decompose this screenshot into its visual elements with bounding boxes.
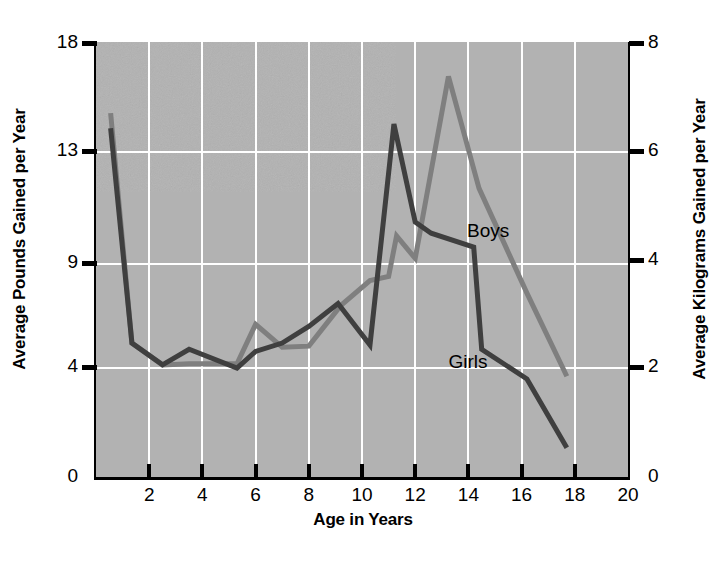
y-axis-left-tick-label: 4 bbox=[38, 355, 78, 377]
y-axis-right-tick-label: 0 bbox=[648, 465, 688, 487]
y-axis-right-title: Average Kilograms Gained per Year bbox=[680, 0, 720, 478]
y-axis-left-tickmark bbox=[82, 365, 97, 370]
x-axis-title: Age in Years bbox=[0, 510, 726, 530]
x-axis-tick-label: 14 bbox=[448, 484, 488, 506]
y-axis-right-tick-label: 4 bbox=[648, 248, 688, 270]
y-axis-left-title: Average Pounds Gained per Year bbox=[0, 0, 40, 478]
x-axis-tick-label: 16 bbox=[502, 484, 542, 506]
series-line-girls bbox=[111, 124, 567, 448]
y-axis-left-tickmark bbox=[82, 41, 97, 46]
y-axis-left-title-text: Average Pounds Gained per Year bbox=[10, 108, 30, 369]
chart-container: Average Pounds Gained per Year Average K… bbox=[0, 0, 726, 569]
y-axis-left-tickmark bbox=[82, 261, 97, 266]
x-axis-tick-label: 4 bbox=[182, 484, 222, 506]
y-axis-right-tick-label: 8 bbox=[648, 31, 688, 53]
series-label-boys: Boys bbox=[467, 220, 509, 242]
x-axis-tick-label: 12 bbox=[395, 484, 435, 506]
y-axis-right-tickmark bbox=[629, 365, 644, 370]
x-axis-tick-label: 18 bbox=[555, 484, 595, 506]
x-axis-tick-label: 10 bbox=[342, 484, 382, 506]
y-axis-left-tick-label: 18 bbox=[38, 31, 78, 53]
y-axis-right-tick-label: 2 bbox=[648, 355, 688, 377]
x-axis-tick-label: 20 bbox=[608, 484, 648, 506]
y-axis-right-title-text: Average Kilograms Gained per Year bbox=[690, 98, 710, 380]
y-axis-right-tickmark bbox=[629, 41, 644, 46]
y-axis-right-tickmark bbox=[629, 149, 644, 154]
y-axis-left-tick-label: 0 bbox=[38, 465, 78, 487]
x-axis-tick-label: 2 bbox=[129, 484, 169, 506]
series-label-girls: Girls bbox=[448, 351, 487, 373]
y-axis-left-tick-label: 13 bbox=[38, 139, 78, 161]
y-axis-right-tick-label: 6 bbox=[648, 139, 688, 161]
x-axis-tick-label: 8 bbox=[289, 484, 329, 506]
y-axis-right-tickmark bbox=[629, 258, 644, 263]
y-axis-left-tickmark bbox=[82, 149, 97, 154]
data-series-layer bbox=[96, 42, 628, 478]
y-axis-left-tick-label: 9 bbox=[38, 251, 78, 273]
x-axis-tick-label: 6 bbox=[236, 484, 276, 506]
